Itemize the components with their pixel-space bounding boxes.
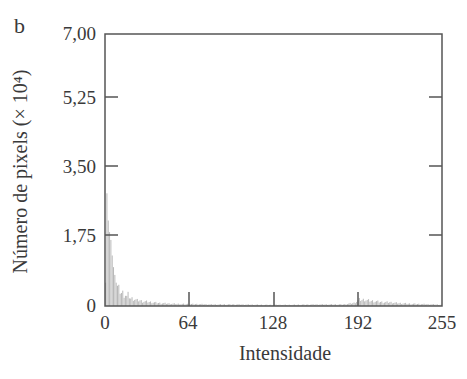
histogram-plot xyxy=(0,0,467,379)
histogram-bars xyxy=(106,193,442,306)
plot-frame xyxy=(105,34,442,306)
tick-marks xyxy=(105,97,442,306)
